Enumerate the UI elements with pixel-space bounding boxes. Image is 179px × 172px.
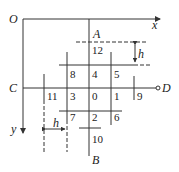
node-10: 10 xyxy=(92,133,104,145)
origin-label: O xyxy=(9,12,18,26)
point-B-label: B xyxy=(92,153,100,167)
point-A-label: A xyxy=(92,27,101,41)
node-8: 8 xyxy=(70,68,76,80)
x-axis-label: x xyxy=(151,18,158,32)
node-0: 0 xyxy=(92,90,98,102)
h-vertical-label: h xyxy=(138,47,144,61)
node-6: 6 xyxy=(114,111,120,123)
node-1: 1 xyxy=(114,90,120,102)
node-7: 7 xyxy=(70,111,76,123)
point-C-label: C xyxy=(9,81,18,95)
point-D-label: D xyxy=(161,81,171,95)
node-11: 11 xyxy=(47,90,58,102)
y-axis-label: y xyxy=(10,122,17,136)
node-2: 2 xyxy=(92,111,98,123)
point-D-marker xyxy=(156,86,160,90)
node-4: 4 xyxy=(92,68,98,80)
node-9: 9 xyxy=(137,90,143,102)
node-5: 5 xyxy=(114,68,120,80)
node-12: 12 xyxy=(92,44,103,56)
diagram-canvas: O x y A B C D h h 12 8 4 5 11 3 0 1 9 7 … xyxy=(0,0,179,172)
node-3: 3 xyxy=(70,90,76,102)
h-horizontal-label: h xyxy=(53,116,59,130)
grid-diagram: O x y A B C D h h 12 8 4 5 11 3 0 1 9 7 … xyxy=(0,0,179,172)
